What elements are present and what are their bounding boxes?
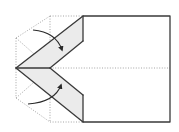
folded-flaps [16, 16, 83, 122]
origami-fold-diagram [0, 0, 179, 132]
lower-left-dotted-diagonal [16, 98, 50, 122]
body-rectangle-outline [83, 16, 170, 122]
upper-left-dotted-diagonal [16, 16, 50, 38]
